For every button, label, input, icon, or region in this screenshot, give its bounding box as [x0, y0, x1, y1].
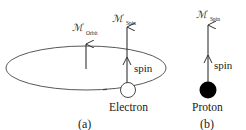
panel-a: ℳ Orbit ℳ Spin spin Electron (a): [6, 13, 166, 130]
magnetic-moment-diagram: ℳ Orbit ℳ Spin spin Electron (a) ℳ Spin …: [0, 0, 246, 130]
orbit-moment-subscript: Orbit: [86, 30, 98, 36]
panel-a-caption: (a): [78, 117, 91, 130]
electron-spin-label: spin: [134, 62, 153, 74]
proton-spin-moment-label: ℳ: [196, 9, 208, 20]
electron-label: Electron: [109, 101, 148, 113]
orbit-moment-label: ℳ: [72, 22, 84, 33]
proton-spin-label: spin: [214, 59, 233, 71]
electron-particle: [121, 83, 136, 98]
proton-particle: [200, 82, 217, 99]
electron-spin-moment-label: ℳ: [112, 13, 124, 24]
proton-label: Proton: [192, 101, 223, 113]
panel-b: ℳ Spin spin Proton (b): [192, 9, 233, 130]
electron-spin-moment-subscript: Spin: [126, 20, 136, 26]
panel-b-caption: (b): [200, 117, 214, 130]
proton-spin-moment-subscript: Spin: [210, 16, 220, 22]
